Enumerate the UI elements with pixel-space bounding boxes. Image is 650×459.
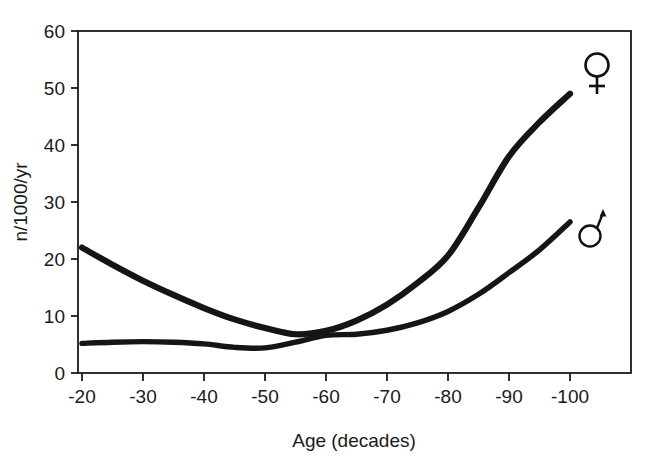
x-tick-label--40: -40 (190, 386, 217, 407)
y-axis-tick-labels: 0102030405060 (44, 21, 65, 384)
x-tick-label--60: -60 (312, 386, 339, 407)
y-tick-label-40: 40 (44, 135, 65, 156)
y-tick-label-30: 30 (44, 192, 65, 213)
male-symbol-marker (580, 209, 607, 247)
x-tick-label--20: -20 (68, 386, 95, 407)
y-tick-label-0: 0 (54, 363, 65, 384)
x-axis-ticks (82, 373, 570, 381)
x-tick-label--80: -80 (434, 386, 461, 407)
y-axis-title: n/1000/yr (10, 162, 31, 242)
chart-figure: 0102030405060 -20-30-40-50-60-70-80-90-1… (0, 0, 650, 459)
x-tick-label--100: -100 (551, 386, 589, 407)
y-tick-label-60: 60 (44, 21, 65, 42)
x-axis-tick-labels: -20-30-40-50-60-70-80-90-100 (68, 386, 589, 407)
x-tick-label--90: -90 (495, 386, 522, 407)
data-series-group (82, 94, 570, 349)
x-tick-label--30: -30 (129, 386, 156, 407)
x-tick-label--50: -50 (251, 386, 278, 407)
series-line-female (82, 94, 570, 335)
y-tick-label-10: 10 (44, 306, 65, 327)
x-axis-title: Age (decades) (292, 430, 416, 451)
female-symbol-marker (586, 54, 609, 95)
chart-canvas: 0102030405060 -20-30-40-50-60-70-80-90-1… (0, 0, 650, 459)
y-axis-ticks (71, 31, 78, 373)
y-tick-label-20: 20 (44, 249, 65, 270)
x-tick-label--70: -70 (373, 386, 400, 407)
y-tick-label-50: 50 (44, 78, 65, 99)
